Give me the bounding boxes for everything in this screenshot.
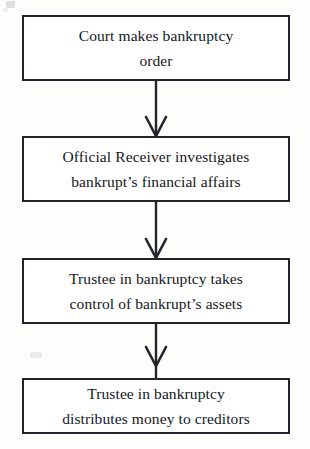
flow-node-trustee-takes-control-of-assets: Trustee in bankruptcy takes control of b… <box>22 258 290 324</box>
flow-connector-3 <box>0 322 310 380</box>
scan-artifact <box>6 1 15 8</box>
scan-artifact <box>3 8 8 12</box>
bankruptcy-process-flowchart: Court makes bankruptcy order Official Re… <box>0 0 310 449</box>
flow-node-label: Court makes bankruptcy order <box>72 23 241 73</box>
flow-node-label: Trustee in bankruptcy takes control of b… <box>62 266 250 316</box>
flow-node-official-receiver-investigates: Official Receiver investigates bankrupt’… <box>22 136 290 202</box>
flow-node-trustee-distributes-money: Trustee in bankruptcy distributes money … <box>22 378 290 434</box>
flow-node-label: Trustee in bankruptcy distributes money … <box>55 381 257 431</box>
flow-node-court-makes-bankruptcy-order: Court makes bankruptcy order <box>22 15 290 81</box>
flow-node-label: Official Receiver investigates bankrupt’… <box>56 144 257 194</box>
flow-connector-2 <box>0 200 310 260</box>
flow-connector-1 <box>0 79 310 138</box>
